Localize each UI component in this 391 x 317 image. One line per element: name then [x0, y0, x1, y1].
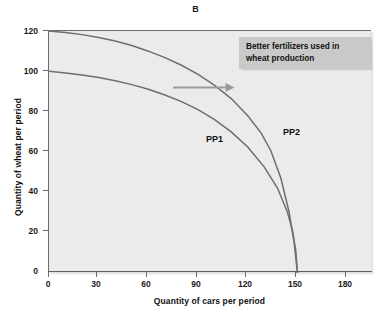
x-tick-mark-180 — [345, 272, 346, 277]
x-tick-label-180: 180 — [325, 279, 365, 289]
annotation-callout-text: Better fertilizers used in wheat product… — [246, 41, 364, 64]
annotation-line-2: wheat production — [246, 53, 364, 65]
y-tick-label-100: 100 — [4, 66, 38, 76]
x-tick-mark-0 — [48, 272, 49, 277]
x-tick-mark-150 — [295, 272, 296, 277]
x-tick-label-120: 120 — [225, 279, 265, 289]
annotation-line-1: Better fertilizers used in — [246, 41, 364, 53]
x-tick-label-30: 30 — [76, 279, 116, 289]
x-tick-label-0: 0 — [28, 279, 68, 289]
y-axis-title: Quantity of wheat per period — [13, 98, 23, 216]
curve-pp1 — [49, 71, 297, 273]
curve-label-pp2: PP2 — [283, 127, 300, 137]
arrow-right-icon — [173, 83, 234, 92]
curve-label-pp1: PP1 — [206, 134, 223, 144]
y-tick-label-0: 0 — [4, 266, 38, 276]
x-tick-label-150: 150 — [275, 279, 315, 289]
annotation-callout-box: Better fertilizers used in wheat product… — [239, 37, 371, 69]
x-tick-label-90: 90 — [176, 279, 216, 289]
y-tick-label-20: 20 — [4, 226, 38, 236]
x-tick-mark-120 — [245, 272, 246, 277]
x-tick-mark-30 — [96, 272, 97, 277]
x-tick-label-60: 60 — [126, 279, 166, 289]
y-tick-label-120: 120 — [4, 26, 38, 36]
panel-title: B — [0, 4, 391, 14]
x-tick-mark-60 — [146, 272, 147, 277]
ppf-chart-figure: B 120 100 80 60 40 20 0 PP1 PP2 — [0, 0, 391, 317]
x-tick-mark-90 — [196, 272, 197, 277]
x-axis-title: Quantity of cars per period — [48, 296, 371, 306]
